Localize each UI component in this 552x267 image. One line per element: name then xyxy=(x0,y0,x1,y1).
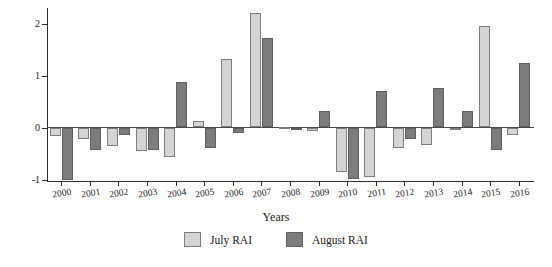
rai-bar-chart: RAI 210-1 200020012002200320042005200620… xyxy=(0,0,552,267)
x-tick-2008 xyxy=(290,182,291,186)
bar-july-rai-2009 xyxy=(307,128,318,131)
legend-entry-july: July RAI xyxy=(184,232,252,247)
chart-legend: July RAI August RAI xyxy=(0,232,552,247)
x-tick-2016 xyxy=(519,182,520,186)
august-swatch-icon xyxy=(286,232,303,247)
bar-july-rai-2008 xyxy=(279,127,290,129)
bar-july-rai-2006 xyxy=(221,59,232,128)
bar-august-rai-2008 xyxy=(291,128,302,130)
bar-july-rai-2004 xyxy=(164,128,175,158)
bar-july-rai-2012 xyxy=(393,128,404,148)
legend-label-august: August RAI xyxy=(312,234,368,246)
bar-august-rai-2004 xyxy=(176,82,187,127)
y-tick-1 xyxy=(42,76,48,77)
x-tick-2005 xyxy=(204,182,205,186)
x-tick-2012 xyxy=(404,182,405,186)
x-tick-2000 xyxy=(61,182,62,186)
bar-july-rai-2005 xyxy=(193,121,204,127)
y-tick-0 xyxy=(42,128,48,129)
bar-august-rai-2002 xyxy=(119,128,130,136)
bar-august-rai-2005 xyxy=(205,128,216,149)
bar-august-rai-2006 xyxy=(233,128,244,133)
y-tick-label-1: 1 xyxy=(14,71,40,81)
bar-august-rai-2014 xyxy=(462,111,473,128)
x-tick-2010 xyxy=(347,182,348,186)
x-tick-2004 xyxy=(176,182,177,186)
y-tick-label-0: 0 xyxy=(14,123,40,133)
bar-august-rai-2012 xyxy=(405,128,416,139)
x-tick-2003 xyxy=(147,182,148,186)
bar-july-rai-2003 xyxy=(136,128,147,151)
bar-august-rai-2007 xyxy=(262,38,273,127)
bar-august-rai-2010 xyxy=(348,128,359,179)
y-tick--1 xyxy=(42,180,48,181)
bar-july-rai-2015 xyxy=(479,26,490,127)
bar-august-rai-2001 xyxy=(90,128,101,150)
y-tick-label-2: 2 xyxy=(14,19,40,29)
y-tick-2 xyxy=(42,24,48,25)
bar-july-rai-2002 xyxy=(107,128,118,147)
x-tick-2015 xyxy=(490,182,491,186)
y-axis-line xyxy=(47,8,48,182)
bar-august-rai-2011 xyxy=(376,91,387,128)
bar-july-rai-2011 xyxy=(364,128,375,178)
bar-august-rai-2003 xyxy=(148,128,159,151)
x-tick-2014 xyxy=(462,182,463,186)
x-tick-2002 xyxy=(118,182,119,186)
x-tick-2006 xyxy=(233,182,234,186)
x-tick-2009 xyxy=(319,182,320,186)
bar-july-rai-2014 xyxy=(450,128,461,130)
bar-july-rai-2016 xyxy=(507,128,518,135)
x-tick-2011 xyxy=(376,182,377,186)
bar-july-rai-2013 xyxy=(421,128,432,146)
y-tick-label--1: -1 xyxy=(14,175,40,185)
x-tick-2007 xyxy=(261,182,262,186)
bar-august-rai-2013 xyxy=(433,88,444,128)
x-tick-2001 xyxy=(90,182,91,186)
bar-august-rai-2000 xyxy=(62,128,73,180)
bar-august-rai-2015 xyxy=(491,128,502,150)
legend-label-july: July RAI xyxy=(210,234,252,246)
bar-august-rai-2016 xyxy=(519,63,530,127)
july-swatch-icon xyxy=(184,232,201,247)
x-axis-title: Years xyxy=(0,210,552,225)
bar-july-rai-2001 xyxy=(78,128,89,140)
x-tick-2013 xyxy=(433,182,434,186)
bar-august-rai-2009 xyxy=(319,111,330,128)
bar-july-rai-2010 xyxy=(336,128,347,173)
y-axis-title: RAI xyxy=(0,84,1,106)
legend-entry-august: August RAI xyxy=(286,232,368,247)
bar-july-rai-2007 xyxy=(250,13,261,127)
bar-july-rai-2000 xyxy=(50,128,61,137)
